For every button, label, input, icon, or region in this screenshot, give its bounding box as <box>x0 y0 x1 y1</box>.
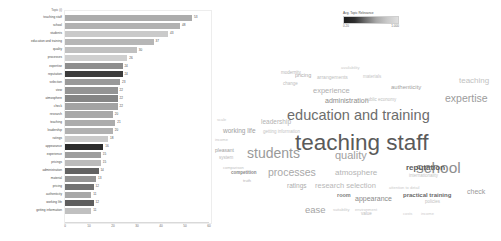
cloud-word[interactable]: leadership <box>261 119 291 126</box>
cloud-word[interactable]: authenticity <box>391 84 421 90</box>
bar-fill[interactable] <box>65 120 115 126</box>
bar-track: 18 <box>65 135 212 143</box>
bar-row[interactable]: pricings15 <box>0 159 212 167</box>
cloud-word[interactable]: truth <box>243 179 251 183</box>
bar-row[interactable]: working life12 <box>0 199 212 207</box>
cloud-word[interactable]: education and training <box>287 108 430 123</box>
x-axis-tick: 60 <box>207 224 210 228</box>
bar-fill[interactable] <box>65 176 96 182</box>
bar-row[interactable]: check22 <box>0 103 212 111</box>
cloud-word[interactable]: system <box>219 156 233 161</box>
bar-row[interactable]: reputation24 <box>0 70 212 78</box>
bar-fill[interactable] <box>65 192 91 198</box>
bar-fill[interactable] <box>65 87 118 93</box>
x-axis-tick: 50 <box>183 224 186 228</box>
bar-row[interactable]: selection23 <box>0 78 212 86</box>
bar-fill[interactable] <box>65 200 94 206</box>
bar-track: 23 <box>65 78 212 86</box>
bar-category-label: expertise <box>0 65 65 69</box>
bar-fill[interactable] <box>65 79 120 85</box>
cloud-word[interactable]: getting information <box>263 130 300 135</box>
cloud-word[interactable]: working life <box>223 128 256 135</box>
bar-fill[interactable] <box>65 184 94 190</box>
bar-row[interactable]: teaching staff53 <box>0 14 212 22</box>
cloud-word[interactable]: check <box>467 188 485 195</box>
bar-fill[interactable] <box>65 55 127 61</box>
bar-value-label: 24 <box>124 73 127 76</box>
bar-fill[interactable] <box>65 111 113 117</box>
cloud-word[interactable]: quality <box>335 150 367 161</box>
bar-row[interactable]: teaching21 <box>0 119 212 127</box>
bar-fill[interactable] <box>65 31 168 37</box>
cloud-word[interactable]: availability <box>341 66 359 70</box>
cloud-word[interactable]: room <box>337 193 351 199</box>
bar-fill[interactable] <box>65 208 91 214</box>
bar-row[interactable]: students43 <box>0 30 212 38</box>
cloud-word[interactable]: pleasant <box>215 148 234 153</box>
cloud-word[interactable]: arrangements <box>317 75 348 80</box>
bar-row[interactable]: pricing12 <box>0 183 212 191</box>
bar-fill[interactable] <box>65 95 118 101</box>
bar-row[interactable]: administration14 <box>0 167 212 175</box>
bar-row[interactable]: quality30 <box>0 46 212 54</box>
cloud-word[interactable]: experience <box>313 87 350 95</box>
cloud-word[interactable]: teaching <box>459 77 489 85</box>
cloud-word[interactable]: comparison <box>223 166 244 170</box>
cloud-word[interactable]: expertise <box>445 93 488 104</box>
bar-fill[interactable] <box>65 152 101 158</box>
cloud-word[interactable]: attention to detail <box>389 186 419 190</box>
cloud-word[interactable]: ease <box>305 205 326 215</box>
cloud-word[interactable]: appearance <box>355 195 392 202</box>
cloud-word[interactable]: processes <box>268 167 316 178</box>
bar-fill[interactable] <box>65 47 137 53</box>
bar-row[interactable]: appearance16 <box>0 143 212 151</box>
cloud-word[interactable]: competition <box>231 171 257 176</box>
cloud-word[interactable]: materials <box>363 75 381 80</box>
cloud-word[interactable]: practical training <box>403 192 451 198</box>
bar-fill[interactable] <box>65 63 123 69</box>
bar-fill[interactable] <box>65 15 192 21</box>
cloud-word[interactable]: public economy <box>365 98 396 103</box>
cloud-word[interactable]: change <box>283 82 298 87</box>
cloud-word[interactable]: atmosphere <box>335 169 377 177</box>
cloud-word[interactable]: income <box>421 212 434 216</box>
cloud-word[interactable]: environment <box>355 208 377 212</box>
bar-row[interactable]: getting information11 <box>0 207 212 215</box>
cloud-word[interactable]: internationality <box>409 174 438 179</box>
cloud-word[interactable]: costs <box>403 212 412 216</box>
bar-fill[interactable] <box>65 23 180 29</box>
cloud-word[interactable]: scale <box>217 118 226 122</box>
bar-fill[interactable] <box>65 71 123 77</box>
bar-fill[interactable] <box>65 39 154 45</box>
bar-row[interactable]: material13 <box>0 175 212 183</box>
bar-row[interactable]: atmosphere22 <box>0 94 212 102</box>
bar-value-label: 53 <box>194 16 197 19</box>
cloud-word[interactable]: income <box>215 138 228 142</box>
bar-fill[interactable] <box>65 128 113 134</box>
cloud-word[interactable]: suitability <box>333 208 349 212</box>
cloud-word[interactable]: ratings <box>287 183 307 190</box>
cloud-word[interactable]: research selection <box>315 182 376 190</box>
cloud-word[interactable]: reputation <box>406 164 445 172</box>
bar-row[interactable]: leadership20 <box>0 127 212 135</box>
bar-row[interactable]: research20 <box>0 111 212 119</box>
bar-row[interactable]: view22 <box>0 86 212 94</box>
bar-fill[interactable] <box>65 136 108 142</box>
cloud-word[interactable]: policies <box>425 200 440 205</box>
bar-fill[interactable] <box>65 144 103 150</box>
bar-fill[interactable] <box>65 103 118 109</box>
bar-fill[interactable] <box>65 160 101 166</box>
cloud-word[interactable]: value <box>361 212 372 217</box>
bar-category-label: research <box>0 113 65 117</box>
bar-fill[interactable] <box>65 168 99 174</box>
bar-row[interactable]: authenticity11 <box>0 191 212 199</box>
cloud-word[interactable]: modernity <box>281 71 301 76</box>
cloud-word[interactable]: administration <box>325 97 369 104</box>
cloud-word[interactable]: students <box>247 146 300 160</box>
bar-row[interactable]: education and training37 <box>0 38 212 46</box>
bar-row[interactable]: expertise24 <box>0 62 212 70</box>
bar-row[interactable]: school48 <box>0 22 212 30</box>
bar-row[interactable]: ratings18 <box>0 135 212 143</box>
bar-row[interactable]: processes26 <box>0 54 212 62</box>
bar-row[interactable]: experience15 <box>0 151 212 159</box>
